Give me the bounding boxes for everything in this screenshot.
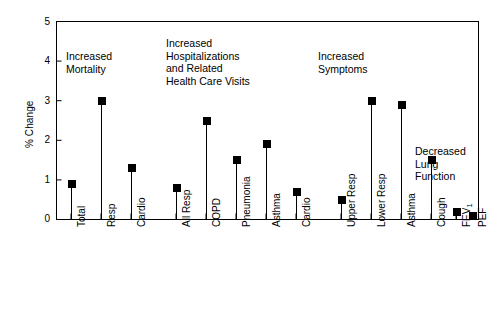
data-point-stem [236, 160, 237, 219]
data-point-stem [176, 188, 177, 220]
data-point-stem [71, 184, 72, 220]
x-axis-category-label: FEV1 [461, 203, 472, 227]
chart-figure: % Change 5 4 3 2 1 0 Increased Mortality… [0, 0, 499, 309]
data-point-marker[interactable] [293, 188, 301, 196]
x-axis-category-label: Cardio [136, 198, 147, 227]
data-point-stem [206, 121, 207, 220]
data-point-marker[interactable] [98, 97, 106, 105]
data-point-marker[interactable] [453, 208, 461, 216]
x-axis-category-label: Upper Resp [346, 174, 357, 227]
x-axis-category-label: Lower Resp [376, 174, 387, 227]
x-axis-category-label: Cough [436, 198, 447, 227]
x-axis-category-label: Cardio [301, 198, 312, 227]
annotation-increased-mortality: Increased Mortality [66, 50, 112, 75]
y-tick-label-0: 0 [32, 213, 50, 224]
x-axis-category-label: Pneumonia [241, 176, 252, 227]
data-point-marker[interactable] [173, 184, 181, 192]
x-axis-category-label: Total [76, 206, 87, 227]
data-point-marker[interactable] [338, 196, 346, 204]
annotation-decreased-lung-function: Decreased Lung Function [415, 145, 466, 183]
x-axis-category-label: Resp [106, 204, 117, 227]
y-tick-label-3: 3 [32, 95, 50, 106]
x-axis-category-label: Asthma [271, 193, 282, 227]
data-point-marker[interactable] [233, 156, 241, 164]
data-point-marker[interactable] [203, 117, 211, 125]
data-point-marker[interactable] [68, 180, 76, 188]
data-point-marker[interactable] [263, 140, 271, 148]
data-point-stem [431, 160, 432, 219]
data-point-stem [296, 192, 297, 220]
data-point-stem [101, 101, 102, 220]
x-axis-category-label: COPD [211, 198, 222, 227]
data-point-stem [266, 144, 267, 219]
y-tick-label-1: 1 [32, 174, 50, 185]
y-tick-label-4: 4 [32, 55, 50, 66]
y-tick-label-2: 2 [32, 134, 50, 145]
data-point-marker[interactable] [428, 156, 436, 164]
data-point-stem [401, 105, 402, 220]
data-point-marker[interactable] [368, 97, 376, 105]
x-axis-category-label: Asthma [406, 193, 417, 227]
data-point-stem [371, 101, 372, 220]
data-point-stem [131, 168, 132, 219]
data-point-marker[interactable] [128, 164, 136, 172]
annotation-increased-hospitalizations: Increased Hospitalizations and Related H… [166, 37, 250, 87]
data-point-marker[interactable] [398, 101, 406, 109]
x-axis-category-label: All Resp [181, 190, 192, 227]
annotation-increased-symptoms: Increased Symptoms [318, 50, 368, 75]
x-axis-category-label: PEF [477, 208, 488, 227]
y-tick-label-5: 5 [32, 16, 50, 27]
